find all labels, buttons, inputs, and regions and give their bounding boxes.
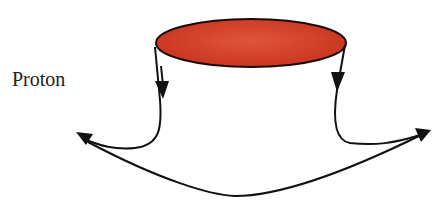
left-down-arrowhead	[155, 81, 169, 99]
diagram-canvas	[0, 0, 440, 207]
red-disk	[156, 19, 346, 67]
right-down-arrowhead	[331, 72, 345, 92]
left-flow-line	[82, 47, 161, 149]
right-flow-line	[335, 45, 420, 144]
